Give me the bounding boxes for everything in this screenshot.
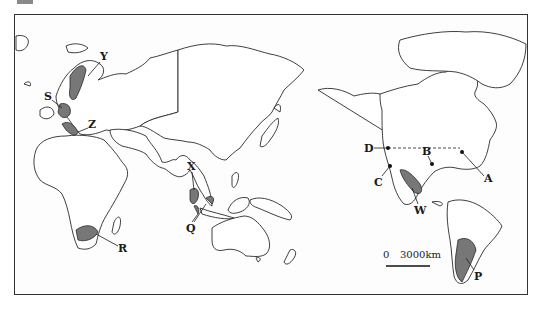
label-c: C [374, 176, 383, 189]
label-w: W [413, 204, 427, 217]
label-p: P [474, 270, 482, 283]
label-s: S [44, 90, 52, 103]
scale-zero: 0 [383, 249, 389, 260]
region-q1 [194, 206, 199, 214]
oceania-landmass [212, 216, 296, 264]
scale-bar: 0 3000km [383, 249, 442, 266]
world-map: Y S Z X Q R W P A B C D 0 3000km [0, 0, 544, 310]
region-x [190, 188, 199, 203]
label-y: Y [99, 50, 108, 63]
label-q: Q [186, 222, 196, 235]
region-s [58, 103, 70, 117]
label-x: X [187, 160, 196, 173]
label-z: Z [88, 118, 96, 131]
label-a: A [483, 172, 493, 185]
scale-distance: 3000km [400, 249, 442, 260]
label-b: B [422, 145, 431, 158]
label-r: R [118, 242, 128, 255]
north-america-landmass [318, 31, 526, 206]
label-d: D [364, 142, 374, 155]
